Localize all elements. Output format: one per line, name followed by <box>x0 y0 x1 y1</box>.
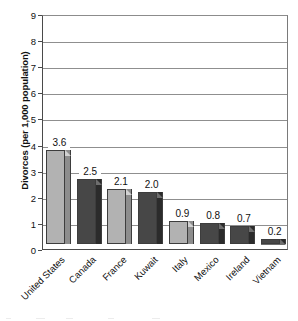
scan-artifact <box>0 313 298 321</box>
y-axis-tick-label: 6 <box>18 88 36 99</box>
y-axis-tick-label: 8 <box>18 36 36 47</box>
bar <box>107 189 126 250</box>
bar-top-bevel <box>157 192 163 198</box>
bar-front-face <box>230 226 249 244</box>
y-axis-tick-label: 5 <box>18 114 36 125</box>
bar-side-face <box>65 150 71 244</box>
bar-top-bevel <box>280 239 286 245</box>
bar-top-bevel <box>188 221 194 227</box>
bar-front-face <box>46 150 65 244</box>
bar-front-face <box>200 223 219 244</box>
y-axis-tick-label: 7 <box>18 62 36 73</box>
bar-side-face <box>96 179 102 244</box>
bar-top-bevel <box>219 223 225 229</box>
bar-value-label: 0.2 <box>264 226 286 237</box>
bar-value-label: 2.5 <box>79 166 101 177</box>
bar-value-label: 2.0 <box>141 179 163 190</box>
bar <box>200 223 219 250</box>
bar-value-label: 0.8 <box>202 210 224 221</box>
y-axis-tick-label: 3 <box>18 166 36 177</box>
y-axis-tick-label: 2 <box>18 192 36 203</box>
bar-series-group: 3.62.52.12.00.90.80.70.2 <box>42 15 288 250</box>
bar <box>77 179 96 250</box>
bar-value-label: 0.9 <box>171 208 193 219</box>
bar <box>138 192 157 250</box>
y-axis-tick-label: 4 <box>18 140 36 151</box>
bar-side-face <box>126 189 132 244</box>
y-axis-tick-label: 1 <box>18 218 36 229</box>
bar-top-bevel <box>249 226 255 232</box>
bar <box>230 226 249 250</box>
bar-front-face <box>261 239 280 244</box>
bar-value-label: 2.1 <box>110 176 132 187</box>
bar-front-face <box>77 179 96 244</box>
bar-value-label: 0.7 <box>233 213 255 224</box>
y-axis-tick-mark <box>38 250 42 251</box>
bar <box>46 150 65 250</box>
bar-top-bevel <box>65 150 71 156</box>
bar-top-bevel <box>96 179 102 185</box>
bar-front-face <box>107 189 126 244</box>
y-axis-tick-label: 9 <box>18 10 36 21</box>
bar-side-face <box>157 192 163 244</box>
bar <box>169 221 188 251</box>
bar-chart-figure: Divorces (per 1,000 population) 01234567… <box>0 0 298 321</box>
bar-front-face <box>169 221 188 245</box>
bar-front-face <box>138 192 157 244</box>
x-axis-label-group: United StatesCanadaFranceKuwaitItalyMexi… <box>0 252 298 321</box>
bar-top-bevel <box>126 189 132 195</box>
bar <box>261 239 280 250</box>
bar-value-label: 3.6 <box>48 137 70 148</box>
